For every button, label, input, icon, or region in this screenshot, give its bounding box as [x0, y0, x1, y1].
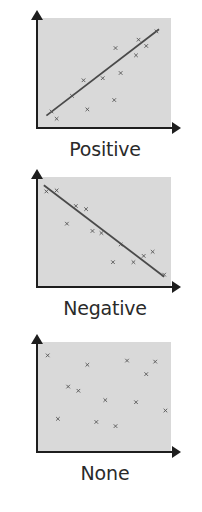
plot-area [37, 342, 171, 452]
scatter-plot-none [0, 324, 202, 464]
scatter-plot-negative [0, 159, 202, 299]
chart-label-positive: Positive [0, 138, 202, 160]
chart-panel-negative: Negative [0, 159, 202, 324]
x-axis-arrow-icon [172, 122, 181, 134]
y-axis-arrow-icon [31, 169, 43, 179]
x-axis-arrow-icon [172, 281, 181, 293]
y-axis-arrow-icon [31, 334, 43, 344]
chart-panel-none: None [0, 324, 202, 512]
scatter-plot-positive [0, 0, 202, 140]
x-axis-arrow-icon [172, 446, 181, 458]
chart-panel-positive: Positive [0, 0, 202, 165]
y-axis-arrow-icon [31, 10, 43, 20]
chart-label-negative: Negative [0, 297, 202, 319]
chart-label-none: None [0, 462, 202, 484]
